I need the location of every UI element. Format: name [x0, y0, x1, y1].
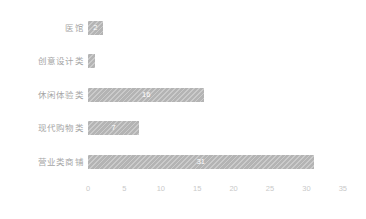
- bar-row: 休闲体验类 16: [0, 88, 366, 102]
- bar-value-label: 31: [88, 155, 314, 169]
- bar-row: 创意设计类 1: [0, 54, 366, 68]
- bar-row: 现代购物类 7: [0, 121, 366, 135]
- category-label: 创意设计类: [0, 52, 84, 70]
- category-label: 医馆: [0, 19, 84, 37]
- x-tick-label: 30: [294, 182, 318, 196]
- x-axis: 0 5 10 15 20 25 30 35: [0, 182, 366, 198]
- bar[interactable]: 31: [88, 155, 314, 169]
- bar[interactable]: 1: [88, 54, 95, 68]
- x-tick-label: 0: [76, 182, 100, 196]
- x-tick-label: 35: [331, 182, 355, 196]
- bar-value-label: 7: [88, 121, 139, 135]
- category-label: 营业类商铺: [0, 153, 84, 171]
- bar[interactable]: 2: [88, 21, 103, 35]
- bar-row: 营业类商铺 31: [0, 155, 366, 169]
- x-tick-label: 25: [258, 182, 282, 196]
- bar[interactable]: 7: [88, 121, 139, 135]
- horizontal-bar-chart: 医馆 2 创意设计类 1 休闲体验类 16 现代购物类 7 营业类商铺: [0, 0, 366, 219]
- x-tick-label: 5: [112, 182, 136, 196]
- category-label: 休闲体验类: [0, 86, 84, 104]
- x-tick-label: 10: [149, 182, 173, 196]
- bar-value-label: 16: [88, 88, 204, 102]
- x-tick-label: 15: [185, 182, 209, 196]
- category-label: 现代购物类: [0, 119, 84, 137]
- bar-value-label: 2: [88, 21, 103, 35]
- x-tick-label: 20: [222, 182, 246, 196]
- bar-row: 医馆 2: [0, 21, 366, 35]
- bar[interactable]: 16: [88, 88, 204, 102]
